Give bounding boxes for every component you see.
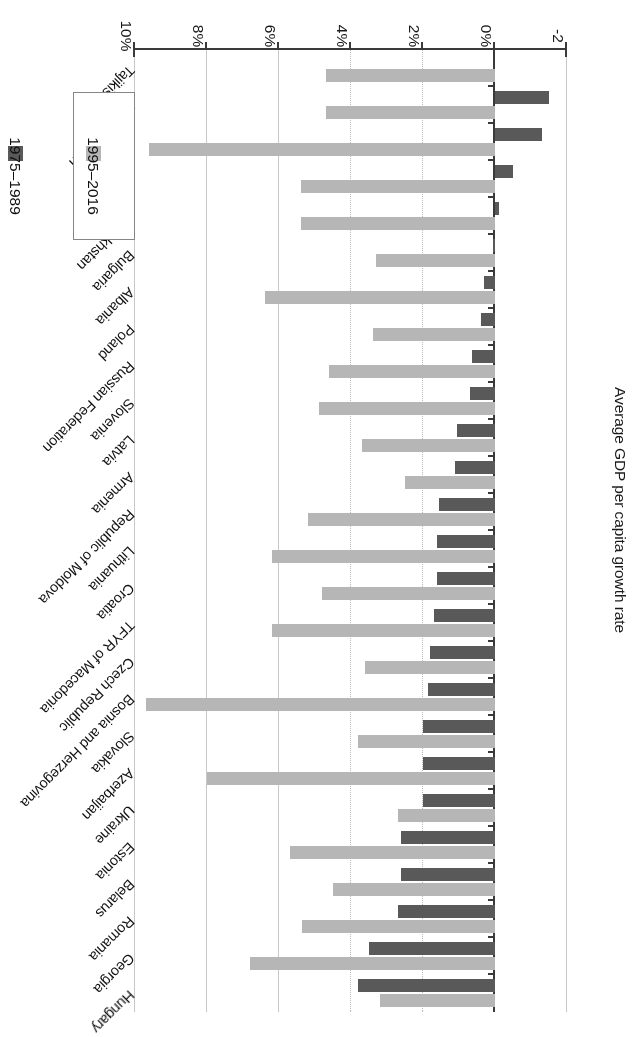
bar <box>358 980 495 993</box>
bar <box>272 551 495 564</box>
bar <box>301 181 495 194</box>
bar <box>401 832 495 845</box>
category-tick <box>488 270 495 272</box>
value-axis <box>567 0 607 1020</box>
bar <box>149 144 495 157</box>
bar <box>495 129 542 142</box>
category-tick <box>488 862 495 864</box>
bar <box>329 366 495 379</box>
category-tick <box>488 899 495 901</box>
bar <box>326 70 495 83</box>
gridline <box>566 50 567 1012</box>
bar <box>362 440 495 453</box>
category-tick <box>488 233 495 235</box>
bar <box>405 477 495 490</box>
value-tick-label: 6% <box>261 25 279 47</box>
value-axis-title: Average GDP per capita growth rate <box>607 0 633 1020</box>
plot-area <box>135 50 567 1012</box>
gridline <box>278 50 279 1012</box>
legend-entry: 1975–1989 <box>0 147 54 186</box>
category-label: Hungary <box>89 988 138 1037</box>
bar <box>365 662 495 675</box>
value-tick-label: 0% <box>477 25 495 47</box>
axis-end-cap <box>565 48 567 57</box>
bar <box>376 255 495 268</box>
bar <box>423 795 495 808</box>
category-tick <box>488 492 495 494</box>
value-tick-label: 4% <box>333 25 351 47</box>
bar <box>358 736 495 749</box>
value-tick-label: 2% <box>405 25 423 47</box>
bar <box>428 684 495 697</box>
bar <box>207 773 495 786</box>
bar <box>146 699 495 712</box>
bar <box>437 573 495 586</box>
bar <box>250 958 495 971</box>
category-tick <box>488 307 495 309</box>
category-tick <box>488 122 495 124</box>
bar <box>423 758 495 771</box>
bar <box>373 329 495 342</box>
bar <box>430 647 495 660</box>
category-tick <box>488 640 495 642</box>
bar <box>423 721 495 734</box>
category-label: Belarus <box>93 877 138 922</box>
category-tick <box>488 973 495 975</box>
bar <box>495 203 499 216</box>
category-tick <box>488 603 495 605</box>
legend-label: 1975–1989 <box>7 138 25 216</box>
category-tick <box>488 418 495 420</box>
bar <box>380 995 495 1008</box>
category-tick <box>488 455 495 457</box>
bar <box>319 403 495 416</box>
bar <box>434 610 495 623</box>
category-tick <box>488 714 495 716</box>
bar <box>398 906 495 919</box>
bar <box>301 218 495 231</box>
category-label: Poland <box>95 322 137 364</box>
bar <box>472 351 495 364</box>
bar <box>495 166 513 179</box>
category-tick <box>488 529 495 531</box>
category-tick <box>488 788 495 790</box>
gridline <box>206 50 207 1012</box>
bar <box>322 588 495 601</box>
bar <box>484 277 495 290</box>
category-tick <box>488 381 495 383</box>
chart-legend: 1975–19891995–2016 <box>73 92 135 240</box>
bar <box>437 536 495 549</box>
category-tick <box>488 677 495 679</box>
bar <box>265 292 495 305</box>
value-tick-label: 8% <box>189 25 207 47</box>
bar <box>398 810 495 823</box>
category-tick <box>488 566 495 568</box>
value-tick-label: -2 <box>549 29 567 43</box>
category-tick <box>488 159 495 161</box>
category-tick <box>488 344 495 346</box>
bar <box>326 107 495 120</box>
bar <box>457 425 495 438</box>
bar <box>333 884 495 897</box>
bar <box>455 462 495 475</box>
category-tick <box>488 751 495 753</box>
category-tick <box>488 936 495 938</box>
value-axis-line <box>135 48 567 50</box>
category-tick <box>488 196 495 198</box>
bar <box>470 388 495 401</box>
category-tick <box>488 825 495 827</box>
value-tick-label: 10% <box>117 20 135 51</box>
bar <box>495 92 549 105</box>
category-tick <box>488 85 495 87</box>
legend-entry: 1995–2016 <box>54 147 132 186</box>
legend-label: 1995–2016 <box>84 138 102 216</box>
bar <box>308 514 495 527</box>
bar <box>290 847 495 860</box>
bar <box>302 921 495 934</box>
category-label: Estonia <box>93 840 138 885</box>
category-tick <box>488 48 495 50</box>
bar <box>493 240 495 253</box>
bar <box>481 314 495 327</box>
gridline <box>350 50 351 1012</box>
